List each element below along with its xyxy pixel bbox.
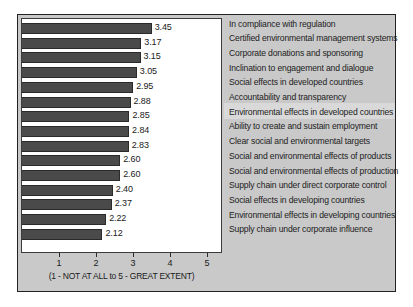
legend-item: Social and environmental effects of prod… <box>229 151 391 162</box>
bar-row: 2.95 <box>22 81 221 95</box>
legend-item: Social and environmental effects of prod… <box>229 166 398 177</box>
bar-value-label: 2.22 <box>109 212 126 224</box>
legend-item: Social effects in developing countries <box>229 195 365 206</box>
bar-value-label: 2.83 <box>132 139 149 151</box>
bar-value-label: 2.40 <box>116 183 133 195</box>
bar-value-label: 3.45 <box>155 21 172 33</box>
x-axis-tick-label: 2 <box>93 257 98 269</box>
bar-value-label: 2.60 <box>123 168 140 180</box>
bar <box>22 111 129 122</box>
bar-value-label: 3.17 <box>144 36 161 48</box>
x-axis-caption: (1 - NOT AT ALL to 5 - GREAT EXTENT) <box>21 271 222 281</box>
bar-row: 2.60 <box>22 169 221 183</box>
category-legend-panel: In compliance with regulationCertified e… <box>224 15 395 291</box>
bar <box>22 97 131 108</box>
legend-item: Ability to create and sustain employment <box>229 121 377 132</box>
bar <box>22 214 106 225</box>
bar-value-label: 2.37 <box>115 197 132 209</box>
bar-row: 2.12 <box>22 228 221 242</box>
bar-value-label: 2.95 <box>136 80 153 92</box>
bar <box>22 170 120 181</box>
bar-value-label: 2.60 <box>123 153 140 165</box>
legend-item: Accountability and transparency <box>229 92 346 103</box>
legend-item: In compliance with regulation <box>229 19 335 30</box>
bar-value-label: 2.85 <box>132 109 149 121</box>
x-axis-tick-label: 1 <box>56 257 61 269</box>
bar <box>22 126 129 137</box>
bar-row: 2.40 <box>22 184 221 198</box>
bar-row: 2.37 <box>22 198 221 212</box>
x-axis-tick-label: 3 <box>130 257 135 269</box>
chart-figure: 3.453.173.153.052.952.882.852.842.832.60… <box>17 14 396 292</box>
bar <box>22 199 112 210</box>
bar-row: 3.15 <box>22 51 221 65</box>
bar-row: 2.83 <box>22 140 221 154</box>
bar-row: 2.22 <box>22 213 221 227</box>
bar-value-label: 3.05 <box>140 65 157 77</box>
bar-row: 3.45 <box>22 22 221 36</box>
plot-area: 3.453.173.153.052.952.882.852.842.832.60… <box>21 18 222 253</box>
bar <box>22 185 113 196</box>
legend-item: Certified environmental management syste… <box>229 33 398 44</box>
bar-row: 2.84 <box>22 125 221 139</box>
bar-value-label: 2.84 <box>132 124 149 136</box>
bar <box>22 141 129 152</box>
bar <box>22 155 120 166</box>
bar-row: 2.88 <box>22 96 221 110</box>
legend-item: Supply chain under corporate influence <box>229 224 372 235</box>
x-axis: 12345(1 - NOT AT ALL to 5 - GREAT EXTENT… <box>21 253 222 290</box>
x-axis-tick-label: 5 <box>204 257 209 269</box>
bar <box>22 23 152 34</box>
plot-column: 3.453.173.153.052.952.882.852.842.832.60… <box>18 15 224 291</box>
bar-value-label: 2.88 <box>134 95 151 107</box>
bar <box>22 82 133 93</box>
bar <box>22 38 141 49</box>
legend-item: Social effects in developed countries <box>229 77 363 88</box>
x-axis-tick-label: 4 <box>167 257 172 269</box>
bar-value-label: 2.12 <box>105 227 122 239</box>
legend-item: Corporate donations and sponsoring <box>229 48 363 59</box>
bar-row: 2.85 <box>22 110 221 124</box>
bar <box>22 67 137 78</box>
bar-row: 3.17 <box>22 37 221 51</box>
bar-row: 2.60 <box>22 154 221 168</box>
legend-item: Clear social and environmental targets <box>229 136 370 147</box>
legend-item: Environmental effects in developing coun… <box>229 210 395 221</box>
legend-item: Supply chain under direct corporate cont… <box>229 180 386 191</box>
bar-value-label: 3.15 <box>144 50 161 62</box>
bar <box>22 229 102 240</box>
bar-row: 3.05 <box>22 66 221 80</box>
bar <box>22 52 141 63</box>
legend-item: Environmental effects in developed count… <box>229 107 393 118</box>
legend-item: Inclination to engagement and dialogue <box>229 63 373 74</box>
